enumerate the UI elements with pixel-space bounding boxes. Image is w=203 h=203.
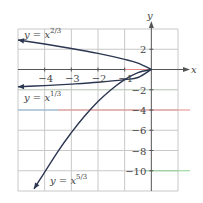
x-axis-arrow-icon [183,67,190,72]
curve-label: y = x1/3 [23,90,61,103]
grid [18,29,190,191]
chart: −4−3−2−12−2−4−6−8−10y = x2/3y = x1/3y = … [0,0,203,203]
y-tick-label: −2 [132,85,147,96]
curve-label-base: y = x [23,29,50,40]
y-tick-label: −10 [125,166,146,177]
x-axis-label: x [191,64,197,75]
x-tick-label: −1 [118,73,133,84]
y-tick-label: −6 [132,125,147,136]
curve-label-exponent: 5/3 [76,173,87,181]
y-tick-label: −8 [132,146,147,157]
x-tick-label: −3 [65,73,80,84]
x-tick-label: −4 [38,73,53,84]
curve-label-base: y = x [23,92,50,103]
y-axis-label: y [146,10,153,21]
y-tick-label: 2 [140,44,146,55]
curve-arrow-icon [18,84,24,89]
axes [18,21,190,191]
curve-label-exponent: 1/3 [50,90,61,98]
curve-label: y = x5/3 [49,173,87,186]
y-tick-label: −4 [132,105,147,116]
curve-label-exponent: 2/3 [50,27,61,35]
x-tick-label: −2 [92,73,107,84]
y-axis-arrow-icon [149,21,154,28]
curve-label: y = x2/3 [23,27,61,40]
curve-1 [18,40,151,70]
curve-label-base: y = x [49,175,76,186]
